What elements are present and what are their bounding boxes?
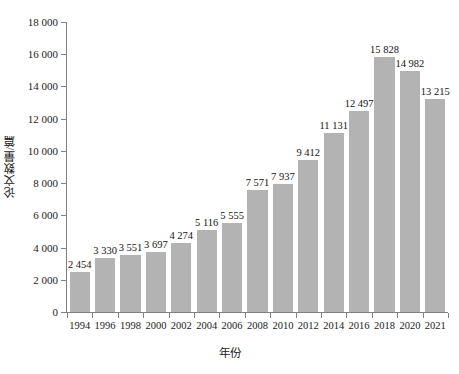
x-tick-label: 2004 (196, 320, 217, 331)
x-tick-mark (67, 313, 68, 318)
x-tick-label: 1994 (69, 320, 90, 331)
x-tick-label: 2008 (247, 320, 268, 331)
y-tick-label: 16 000 (28, 48, 58, 60)
x-tick-label: 2012 (298, 320, 319, 331)
bar-value-label: 7 937 (271, 171, 295, 182)
bar (146, 252, 166, 312)
x-axis-title: 年份 (0, 344, 459, 360)
bar (247, 190, 267, 312)
x-tick-mark (448, 313, 449, 318)
bar-value-label: 5 116 (195, 217, 218, 228)
x-tick-label: 2014 (323, 320, 344, 331)
y-tick-label: 0 (53, 306, 59, 318)
x-tick-label: 2018 (374, 320, 395, 331)
x-tick-mark (397, 313, 398, 318)
y-tick-label: 2 000 (33, 274, 58, 286)
x-tick-mark (372, 313, 373, 318)
y-tick-label: 8 000 (33, 177, 58, 189)
x-tick-mark (346, 313, 347, 318)
y-axis-title: 论文数量/篇 (2, 135, 18, 198)
x-axis-line (66, 312, 448, 313)
x-tick-mark (169, 313, 170, 318)
bar-value-label: 5 555 (220, 210, 244, 221)
bar-value-label: 3 697 (144, 239, 168, 250)
bar-value-label: 3 551 (119, 242, 143, 253)
x-tick-label: 2006 (222, 320, 243, 331)
x-tick-mark (245, 313, 246, 318)
x-tick-label: 1996 (95, 320, 116, 331)
bar (197, 230, 217, 312)
y-tick-label: 6 000 (33, 209, 58, 221)
x-tick-mark (296, 313, 297, 318)
bar-value-label: 2 454 (68, 259, 92, 270)
x-tick-mark (219, 313, 220, 318)
x-tick-label: 1998 (120, 320, 141, 331)
x-tick-mark (423, 313, 424, 318)
bar (120, 255, 140, 312)
x-tick-label: 2020 (399, 320, 420, 331)
bar-chart-figure: 02 0004 0006 0008 00010 00012 00014 0001… (0, 0, 459, 374)
y-tick-label: 10 000 (28, 145, 58, 157)
bar (425, 99, 445, 312)
x-tick-mark (118, 313, 119, 318)
bar (349, 111, 369, 312)
x-tick-mark (143, 313, 144, 318)
plot-area (67, 22, 448, 312)
y-tick-label: 12 000 (28, 113, 58, 125)
x-tick-mark (321, 313, 322, 318)
bar-value-label: 4 274 (169, 230, 193, 241)
bar (171, 243, 191, 312)
bar (95, 258, 115, 312)
bar (273, 184, 293, 312)
x-tick-label: 2002 (171, 320, 192, 331)
bar-value-label: 15 828 (370, 44, 399, 55)
bar-value-label: 14 982 (395, 58, 424, 69)
x-tick-label: 2000 (145, 320, 166, 331)
x-tick-mark (270, 313, 271, 318)
bar (324, 133, 344, 312)
bar-value-label: 9 412 (296, 147, 320, 158)
x-tick-mark (194, 313, 195, 318)
bar-value-label: 3 330 (93, 245, 117, 256)
y-tick-label: 14 000 (28, 80, 58, 92)
y-tick-label: 18 000 (28, 16, 58, 28)
bar-value-label: 7 571 (246, 177, 270, 188)
bar (222, 223, 242, 312)
bar (400, 71, 420, 312)
x-tick-label: 2021 (425, 320, 446, 331)
x-tick-label: 2010 (272, 320, 293, 331)
bar-value-label: 11 131 (319, 120, 348, 131)
x-tick-mark (92, 313, 93, 318)
bar (298, 160, 318, 312)
x-tick-label: 2016 (349, 320, 370, 331)
bar (70, 272, 90, 312)
bar (374, 57, 394, 312)
y-tick-label: 4 000 (33, 242, 58, 254)
bar-value-label: 13 215 (421, 86, 450, 97)
bar-value-label: 12 497 (345, 98, 374, 109)
